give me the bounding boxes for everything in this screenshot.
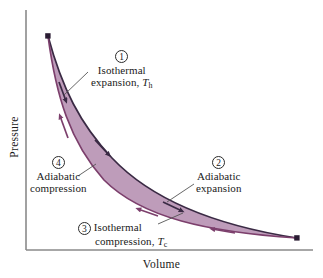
annotation-3-subscript: c <box>164 240 168 249</box>
annotation-2-line2: expansion <box>196 182 242 194</box>
x-axis-title: Volume <box>0 258 323 270</box>
annotation-adiabatic-expansion: 2 Adiabatic expansion <box>196 155 242 195</box>
step-number-4: 4 <box>52 156 65 169</box>
annotation-isothermal-expansion: 1 Isothermal expansion, Th <box>91 49 153 93</box>
y-axis-title: Pressure <box>8 97 20 177</box>
step-number-2: 2 <box>212 156 225 169</box>
annotation-1-line1: Isothermal <box>98 64 146 76</box>
annotation-adiabatic-compression: 4 Adiabatic compression <box>30 155 87 195</box>
annotation-3-line1: Isothermal <box>94 221 142 233</box>
annotation-2-line1: Adiabatic <box>197 170 241 182</box>
annotation-4-line2: compression <box>30 182 87 194</box>
annotation-1-line2: expansion, <box>91 76 142 88</box>
top-left-vertex-marker <box>45 33 50 38</box>
annotation-4-line1: Adiabatic <box>37 170 81 182</box>
cycle-work-area-fill <box>48 36 297 238</box>
annotation-1-subscript: h <box>148 81 152 90</box>
carnot-cycle-figure: 1 Isothermal expansion, Th 2 Adiabatic e… <box>0 0 323 278</box>
step-number-3: 3 <box>78 222 91 235</box>
annotation-3-line2: compression, <box>95 235 157 247</box>
annotation-isothermal-compression: 3 Isothermal compression, Tc <box>78 221 167 251</box>
leader-line-label-1 <box>64 72 88 95</box>
step-number-1: 1 <box>115 50 128 63</box>
leader-line-label-2 <box>167 184 194 202</box>
bottom-right-vertex-marker <box>294 235 299 240</box>
